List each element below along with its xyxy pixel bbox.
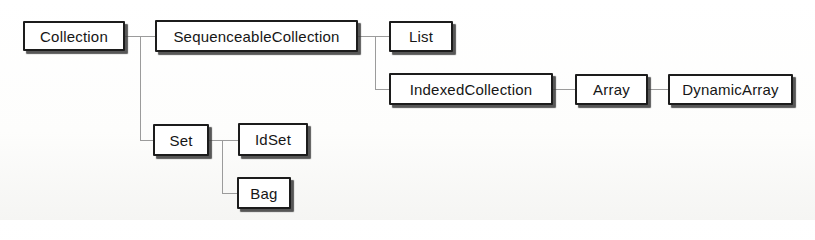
edge-indexedcollection-array [553,89,575,90]
node-dynamic-array: DynamicArray [668,74,793,105]
hierarchy-diagram: Collection SequenceableCollection List I… [0,0,815,220]
edge-sequenceablecollection-trunk [375,36,376,89]
edge-set-idset [208,140,238,141]
edge-collection-trunk [140,36,141,140]
node-bag: Bag [237,177,291,209]
edge-array-dynamicarray [648,89,668,90]
node-set: Set [153,124,209,156]
edge-sequenceablecollection-indexedcollection [375,89,389,90]
node-collection: Collection [23,21,125,51]
node-array: Array [575,74,648,105]
edge-set-bag [222,193,237,194]
edge-collection-set [140,140,153,141]
node-sequenceable-collection: SequenceableCollection [155,20,358,52]
node-id-set: IdSet [238,123,308,156]
edge-set-trunk [222,140,223,193]
edge-sequenceablecollection-list [357,36,389,37]
node-indexed-collection: IndexedCollection [389,73,553,105]
node-list: List [389,21,453,52]
